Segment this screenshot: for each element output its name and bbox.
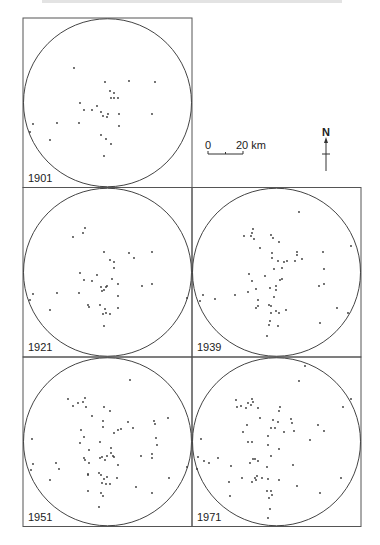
settlement-dot <box>113 432 115 434</box>
settlement-dot <box>91 280 93 282</box>
settlement-dot <box>118 113 120 115</box>
settlement-dot <box>109 483 111 485</box>
settlement-dot <box>29 131 31 133</box>
settlement-dot <box>235 399 237 401</box>
settlement-dot <box>278 448 280 450</box>
settlement-dot <box>252 228 254 230</box>
settlement-dot <box>117 283 119 285</box>
settlement-dot <box>285 309 287 311</box>
scale-bar-line <box>208 151 243 154</box>
settlement-dot <box>272 237 274 239</box>
settlement-dot <box>269 508 271 510</box>
settlement-dot <box>266 335 268 337</box>
settlement-dot <box>117 429 119 431</box>
settlement-dot <box>277 421 279 423</box>
panel-year-label: 1951 <box>28 511 52 523</box>
settlement-dot <box>273 268 275 270</box>
settlement-dot <box>117 295 119 297</box>
settlement-dot <box>118 125 120 127</box>
settlement-dot <box>96 105 98 107</box>
settlement-dot <box>267 517 269 519</box>
settlement-dot <box>113 267 115 269</box>
settlement-dot <box>110 447 112 449</box>
settlement-dot <box>208 462 210 464</box>
settlement-dot <box>286 260 288 262</box>
settlement-dot <box>87 474 89 476</box>
scale-end-label: 20 km <box>236 139 266 151</box>
settlement-dot <box>101 456 103 458</box>
settlement-dot <box>113 261 115 263</box>
settlement-dot <box>106 455 108 457</box>
settlement-dot <box>105 483 107 485</box>
settlement-dot <box>140 455 142 457</box>
settlement-dot <box>103 325 105 327</box>
settlement-dot <box>245 407 247 409</box>
settlement-dot <box>283 431 285 433</box>
map-panel-1901: 1901 <box>23 18 192 188</box>
settlement-dot <box>84 397 86 399</box>
settlement-dot <box>200 438 202 440</box>
settlement-dot <box>109 90 111 92</box>
settlement-dot <box>270 312 272 314</box>
settlement-dot <box>269 320 271 322</box>
settlement-dot <box>107 113 109 115</box>
settlement-dot <box>110 452 112 454</box>
settlement-dot <box>293 430 295 432</box>
settlement-dot <box>141 285 143 287</box>
settlement-dot <box>99 304 101 306</box>
settlement-dot <box>80 429 82 431</box>
settlement-dot <box>257 299 259 301</box>
settlement-dot <box>73 67 75 69</box>
settlement-dot <box>135 486 137 488</box>
settlement-dot <box>323 283 325 285</box>
settlement-dot <box>336 307 338 309</box>
settlement-dot <box>259 417 261 419</box>
settlement-dot <box>266 490 268 492</box>
settlement-dot <box>247 402 249 404</box>
study-area-circle <box>24 19 192 187</box>
settlement-dot <box>151 283 153 285</box>
settlement-dot <box>127 421 129 423</box>
settlement-dot <box>88 306 90 308</box>
settlement-dot <box>249 462 251 464</box>
settlement-dot <box>154 81 156 83</box>
settlement-dot <box>251 280 253 282</box>
settlement-dot <box>234 294 236 296</box>
settlement-dot <box>151 453 153 455</box>
settlement-dot <box>323 268 325 270</box>
settlement-dot <box>186 297 188 299</box>
settlement-dot <box>117 97 119 99</box>
settlement-dot <box>103 406 105 408</box>
settlement-dot <box>110 143 112 145</box>
settlement-dot <box>278 241 280 243</box>
settlement-dot <box>49 139 51 141</box>
settlement-dot <box>128 80 130 82</box>
settlement-dot <box>256 475 258 477</box>
settlement-dot <box>105 138 107 140</box>
settlement-dot <box>105 286 107 288</box>
settlement-dot <box>251 398 253 400</box>
settlement-dot <box>257 460 259 462</box>
settlement-dot <box>199 300 201 302</box>
settlement-dot <box>100 286 102 288</box>
study-area-circle <box>24 188 192 356</box>
settlement-dot <box>79 442 81 444</box>
settlement-dot <box>266 466 268 468</box>
settlement-dot <box>78 122 80 124</box>
settlement-dot <box>275 310 277 312</box>
settlement-dot <box>155 437 157 439</box>
settlement-dot <box>203 460 205 462</box>
settlement-dot <box>240 405 242 407</box>
settlement-dot <box>104 308 106 310</box>
settlement-dot <box>252 401 254 403</box>
scale-start-label: 0 <box>205 139 211 151</box>
settlement-dot <box>32 463 34 465</box>
settlement-dot <box>274 427 276 429</box>
settlement-dot <box>151 492 153 494</box>
settlement-dot <box>251 481 253 483</box>
settlement-dot <box>98 472 100 474</box>
settlement-dot <box>102 115 104 117</box>
settlement-dot <box>117 464 119 466</box>
settlement-dot <box>84 227 86 229</box>
settlement-dot <box>196 468 198 470</box>
